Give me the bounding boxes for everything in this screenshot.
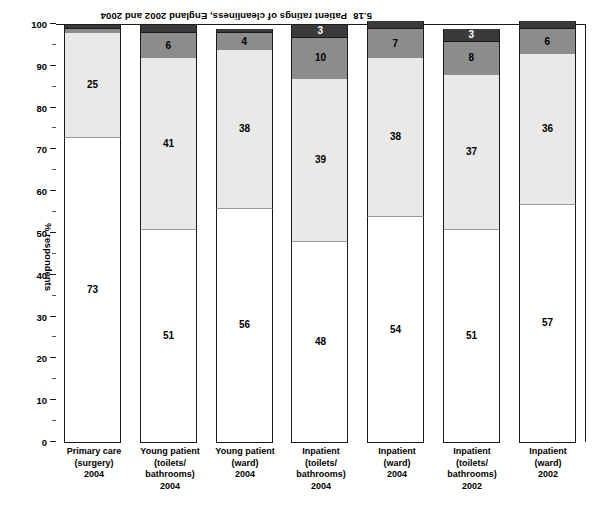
bar-segment-not-at-all-clean: 2 xyxy=(367,21,424,29)
segment-value-label: 73 xyxy=(87,285,98,295)
bar-segment-fairly-clean: 37 xyxy=(443,75,500,230)
bar-segment-not-very-clean: 1 xyxy=(64,29,121,33)
y-axis-minor-tick xyxy=(52,378,56,379)
bar-inpatient-ward-2002[interactable]: 573662 xyxy=(519,25,576,443)
bar-segment-very-clean: 51 xyxy=(140,230,197,443)
figure-caption: 5.18Patient ratings of cleanliness, Engl… xyxy=(101,11,372,22)
y-axis-tick-label: 80 xyxy=(36,102,47,113)
bar-inpatient-toilets-2004[interactable]: 4839103 xyxy=(292,25,349,443)
bar-segment-not-at-all-clean: 3 xyxy=(292,25,349,38)
segment-value-label: 10 xyxy=(314,53,325,63)
y-axis-tick xyxy=(50,65,56,66)
bar-segment-not-very-clean: 6 xyxy=(519,29,576,54)
segment-value-label: 25 xyxy=(87,80,98,90)
y-axis-tick-label: 30 xyxy=(36,311,47,322)
bar-segment-very-clean: 54 xyxy=(367,217,424,443)
bar-segment-not-very-clean: 10 xyxy=(292,38,349,80)
y-axis-tick xyxy=(50,107,56,108)
y-axis-tick-label: 100 xyxy=(31,19,47,30)
y-axis-tick xyxy=(50,441,56,442)
segment-value-label: 48 xyxy=(314,337,325,347)
bar-inpatient-toilets-2002[interactable]: 513783 xyxy=(443,25,500,443)
y-axis-tick-label: 0 xyxy=(42,437,47,448)
segment-value-label: 38 xyxy=(239,124,250,134)
segment-value-label: 37 xyxy=(466,147,477,157)
segment-value-label: 6 xyxy=(544,37,550,47)
bar-segment-not-at-all-clean: 1 xyxy=(216,29,273,33)
y-axis-minor-tick xyxy=(52,211,56,212)
bar-segment-very-clean: 57 xyxy=(519,205,576,443)
y-axis-minor-tick xyxy=(52,86,56,87)
segment-value-label: 3 xyxy=(317,26,323,36)
segment-value-label: 41 xyxy=(163,139,174,149)
y-axis-minor-tick xyxy=(52,420,56,421)
category-label-line: 2004 xyxy=(124,481,216,493)
segment-value-label: 3 xyxy=(469,30,475,40)
bar-segment-fairly-clean: 39 xyxy=(292,79,349,242)
bar-segment-very-clean: 48 xyxy=(292,242,349,443)
bar-segment-fairly-clean: 38 xyxy=(367,58,424,217)
category-label-line: 2004 xyxy=(48,469,140,481)
y-axis-tick xyxy=(50,316,56,317)
y-axis-title: % respondents xyxy=(43,223,54,291)
bar-inpatient-ward-2004[interactable]: 543872 xyxy=(367,25,424,443)
y-axis-tick xyxy=(50,399,56,400)
figure-root: 5.18Patient ratings of cleanliness, Engl… xyxy=(0,0,594,509)
segment-value-label: 38 xyxy=(390,132,401,142)
y-axis-tick xyxy=(50,148,56,149)
y-axis-minor-tick xyxy=(52,169,56,170)
segment-value-label: 51 xyxy=(466,331,477,341)
x-axis-category-label: Primary care(surgery)2004 xyxy=(48,446,140,481)
bar-segment-fairly-clean: 38 xyxy=(216,50,273,209)
y-axis-minor-tick xyxy=(52,128,56,129)
segment-value-label: 51 xyxy=(163,331,174,341)
bar-segment-very-clean: 51 xyxy=(443,230,500,443)
bar-segment-not-very-clean: 6 xyxy=(140,33,197,58)
bar-segment-fairly-clean: 25 xyxy=(64,33,121,138)
segment-value-label: 7 xyxy=(393,39,399,49)
segment-value-label: 4 xyxy=(242,37,248,47)
y-axis-minor-tick xyxy=(52,295,56,296)
segment-value-label: 8 xyxy=(469,53,475,63)
bar-segment-very-clean: 73 xyxy=(64,138,121,443)
bar-segment-not-very-clean: 7 xyxy=(367,29,424,58)
bar-segment-not-very-clean: 4 xyxy=(216,33,273,50)
bar-segment-fairly-clean: 41 xyxy=(140,58,197,229)
bar-young-patient-ward-2004[interactable]: 563841 xyxy=(216,25,273,443)
chart-plot-area: 5736625137835438724839103563841514162732… xyxy=(56,24,586,442)
y-axis-tick-label: 20 xyxy=(36,353,47,364)
segment-value-label: 39 xyxy=(314,155,325,165)
category-label-line: (surgery) xyxy=(48,458,140,470)
bar-segment-fairly-clean: 36 xyxy=(519,54,576,204)
segment-value-label: 36 xyxy=(542,124,553,134)
category-label-line: 2004 xyxy=(275,481,367,493)
bar-primary-care-surgery-2004[interactable]: 732511 xyxy=(64,25,121,443)
segment-value-label: 6 xyxy=(166,41,172,51)
bar-segment-not-very-clean: 8 xyxy=(443,42,500,75)
y-axis-tick xyxy=(50,190,56,191)
y-axis-tick-label: 60 xyxy=(36,186,47,197)
y-axis-tick xyxy=(50,357,56,358)
bar-segment-very-clean: 56 xyxy=(216,209,273,443)
category-label-line: Primary care xyxy=(48,446,140,458)
y-axis-tick-label: 10 xyxy=(36,395,47,406)
bar-segment-not-at-all-clean: 2 xyxy=(519,21,576,29)
figure-caption-text: Patient ratings of cleanliness, England … xyxy=(101,11,348,22)
category-label-line: 2002 xyxy=(426,481,518,493)
y-axis-tick-label: 90 xyxy=(36,60,47,71)
segment-value-label: 56 xyxy=(239,320,250,330)
y-axis-tick xyxy=(50,23,56,24)
segment-value-label: 57 xyxy=(542,318,553,328)
bar-segment-not-at-all-clean: 3 xyxy=(443,29,500,42)
bar-segment-not-at-all-clean: 2 xyxy=(140,25,197,33)
y-axis-tick-label: 70 xyxy=(36,144,47,155)
segment-value-label: 54 xyxy=(390,325,401,335)
y-axis-minor-tick xyxy=(52,337,56,338)
bar-young-patient-toilets-2004[interactable]: 514162 xyxy=(140,25,197,443)
bar-segment-not-at-all-clean: 1 xyxy=(64,25,121,29)
y-axis-minor-tick xyxy=(52,44,56,45)
